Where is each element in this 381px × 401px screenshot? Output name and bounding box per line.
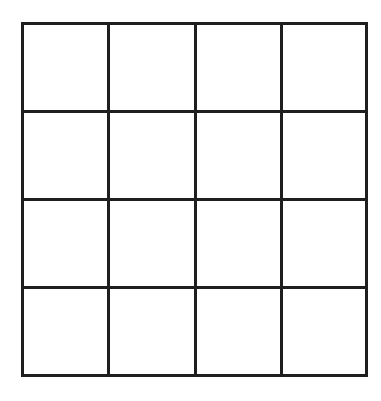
grid-4x4	[21, 22, 368, 377]
grid-line-horizontal-3	[21, 286, 368, 289]
grid-line-horizontal-2	[21, 198, 368, 201]
grid-line-horizontal-1	[21, 110, 368, 113]
grid-line-horizontal-0	[21, 22, 368, 25]
grid-line-horizontal-4	[21, 374, 368, 377]
